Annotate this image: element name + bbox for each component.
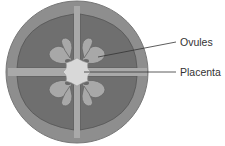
ovules-label: Ovules xyxy=(180,36,213,48)
placenta-label: Placenta xyxy=(180,66,221,78)
